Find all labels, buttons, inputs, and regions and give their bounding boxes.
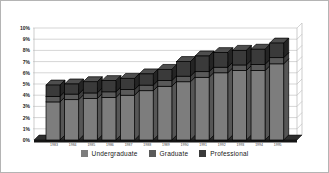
legend-swatch-graduate-icon: [149, 150, 156, 157]
y-axis-tick-label: 7%: [23, 59, 31, 65]
bar-1990-undergraduate-segment-front: [176, 82, 190, 140]
bar-1984-undergraduate-segment-front: [65, 100, 79, 140]
bar-1993-undergraduate-segment-side: [246, 66, 251, 140]
bar-1992-undergraduate-segment-front: [214, 73, 228, 140]
bar-1988-undergraduate-segment-front: [139, 91, 153, 140]
bar-1995-undergraduate-segment-side: [284, 59, 289, 140]
y-axis-tick-label: 6%: [23, 70, 31, 76]
bar-1983-professional-segment-front: [46, 85, 60, 96]
bar-1991-professional-segment-front: [195, 56, 209, 72]
right-wall-tick: [297, 101, 302, 106]
bar-1986-undergraduate-segment-front: [102, 97, 116, 140]
bar-1984-undergraduate-segment-side: [79, 95, 84, 140]
legend-swatch-professional-icon: [199, 150, 206, 157]
bar-1995-graduate-segment-front: [270, 58, 284, 64]
right-wall-tick: [297, 90, 302, 95]
bar-1987-professional-segment-front: [121, 78, 135, 89]
bar-1986-undergraduate-segment-side: [116, 92, 121, 140]
bar-1994-professional-segment-front: [251, 49, 265, 64]
x-axis-year-label: 1992: [218, 143, 226, 147]
y-axis-tick-label: 4%: [23, 92, 31, 98]
y-axis-tick-label: 8%: [23, 47, 31, 53]
y-axis-tick-label: 10%: [20, 25, 31, 31]
bar-1994-undergraduate-segment-side: [265, 66, 270, 140]
bar-1989-graduate-segment-front: [158, 81, 172, 87]
bar-1994-undergraduate-segment-front: [251, 71, 265, 140]
bar-1992-undergraduate-segment-side: [228, 68, 233, 140]
x-axis-year-label: 1985: [87, 143, 95, 147]
y-axis-tick-label: 2%: [23, 115, 31, 121]
right-wall-tick: [297, 45, 302, 50]
bar-1993-professional-segment-front: [232, 50, 246, 65]
y-axis-tick-label: 3%: [23, 103, 31, 109]
bar-1990-professional-segment-front: [176, 62, 190, 77]
bar-1984-professional-segment-front: [65, 84, 79, 94]
bar-1985-undergraduate-segment-side: [97, 94, 102, 140]
bar-1994-graduate-segment-front: [251, 64, 265, 70]
y-axis-tick-label: 0%: [23, 137, 31, 143]
floor-front: [34, 140, 297, 143]
x-axis-year-label: 1988: [143, 143, 151, 147]
legend-item-graduate: Graduate: [149, 150, 189, 157]
right-wall-tick: [297, 68, 302, 73]
legend-item-professional: Professional: [199, 150, 248, 157]
bar-1995-undergraduate-segment-front: [270, 64, 284, 140]
bar-1991-undergraduate-segment-front: [195, 77, 209, 140]
x-axis-year-label: 1993: [237, 143, 245, 147]
x-axis-year-label: 1990: [181, 143, 189, 147]
bar-1990-undergraduate-segment-side: [190, 77, 195, 140]
bar-1991-undergraduate-segment-side: [209, 72, 214, 140]
x-axis-year-label: 1984: [69, 143, 77, 147]
bar-1988-graduate-segment-front: [139, 85, 153, 91]
y-axis-tick-label: 9%: [23, 36, 31, 42]
bar-1991-graduate-segment-front: [195, 72, 209, 78]
bar-1993-graduate-segment-front: [232, 65, 246, 71]
x-axis-year-label: 1983: [50, 143, 58, 147]
y-axis-tick-label: 5%: [23, 81, 31, 87]
bar-1992-graduate-segment-front: [214, 67, 228, 73]
x-axis-year-label: 1994: [255, 143, 263, 147]
right-wall-tick: [297, 79, 302, 84]
bar-1986-graduate-segment-front: [102, 92, 116, 98]
bar-1989-professional-segment-front: [158, 69, 172, 80]
bar-1989-undergraduate-segment-front: [158, 86, 172, 140]
x-axis-year-label: 1987: [125, 143, 133, 147]
bar-1983-undergraduate-segment-side: [60, 97, 65, 140]
y-axis-tick-label: 1%: [23, 126, 31, 132]
bar-1986-professional-segment-front: [102, 81, 116, 92]
bar-1987-graduate-segment-front: [121, 90, 135, 96]
chart-figure: 1983198419851986198719881989199019911992…: [0, 0, 329, 173]
bar-1984-graduate-segment-front: [65, 94, 79, 100]
legend-swatch-undergraduate-icon: [81, 150, 88, 157]
bar-1988-undergraduate-segment-side: [153, 86, 158, 140]
legend-label-professional: Professional: [210, 150, 248, 157]
bar-chart-canvas: 1983198419851986198719881989199019911992…: [1, 1, 329, 173]
bar-1990-graduate-segment-front: [176, 76, 190, 82]
bar-1983-graduate-segment-front: [46, 96, 60, 102]
bar-1985-professional-segment-front: [83, 82, 97, 93]
bar-1993-undergraduate-segment-front: [232, 71, 246, 140]
x-axis-year-label: 1989: [162, 143, 170, 147]
x-axis-year-label: 1991: [199, 143, 207, 147]
bar-1995-professional-segment-front: [270, 43, 284, 58]
bar-1985-undergraduate-segment-front: [83, 99, 97, 140]
x-axis-year-label: 1986: [106, 143, 114, 147]
right-wall-tick: [297, 113, 302, 118]
right-wall-tick: [297, 34, 302, 39]
bar-1989-undergraduate-segment-side: [172, 81, 177, 140]
x-axis-year-label: 1995: [274, 143, 282, 147]
bar-1985-graduate-segment-front: [83, 93, 97, 99]
right-wall-tick: [297, 57, 302, 62]
legend: Undergraduate Graduate Professional: [1, 150, 328, 157]
bar-1988-professional-segment-front: [139, 74, 153, 85]
bar-1987-undergraduate-segment-side: [135, 90, 140, 140]
legend-item-undergraduate: Undergraduate: [81, 150, 138, 157]
right-wall-tick: [297, 23, 302, 28]
legend-label-undergraduate: Undergraduate: [92, 150, 138, 157]
bar-1992-professional-segment-front: [214, 53, 228, 68]
bar-1987-undergraduate-segment-front: [121, 95, 135, 140]
bar-1983-undergraduate-segment-front: [46, 102, 60, 140]
legend-label-graduate: Graduate: [160, 150, 189, 157]
right-wall-tick: [297, 124, 302, 129]
